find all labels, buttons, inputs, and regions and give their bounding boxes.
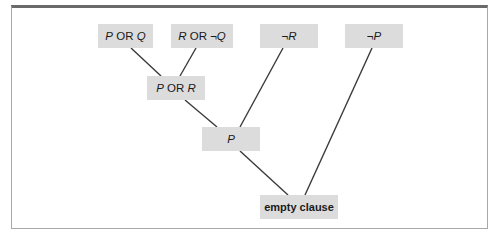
edge-n5-n6 (185, 100, 217, 127)
clause-label: P (227, 133, 235, 145)
clause-node-n4: ¬P (345, 24, 403, 48)
clause-label: ¬R (281, 30, 296, 42)
edge-n2-n5 (180, 48, 196, 76)
edges-layer (0, 0, 497, 239)
clause-node-n7: empty clause (260, 195, 338, 219)
clause-node-n2: R OR ¬Q (171, 24, 233, 48)
edge-n6-n7 (240, 151, 288, 195)
edge-n4-n7 (305, 48, 372, 195)
clause-node-n5: P OR R (147, 76, 205, 100)
edge-n1-n5 (131, 48, 161, 76)
clause-label: P OR Q (105, 30, 145, 42)
clause-label: empty clause (264, 201, 334, 213)
edge-n3-n6 (240, 48, 283, 127)
clause-label: R OR ¬Q (178, 30, 226, 42)
clause-label: ¬P (367, 30, 381, 42)
clause-node-n1: P OR Q (98, 24, 153, 48)
clause-node-n3: ¬R (260, 24, 318, 48)
clause-label: P OR R (156, 82, 196, 94)
clause-node-n6: P (202, 127, 260, 151)
